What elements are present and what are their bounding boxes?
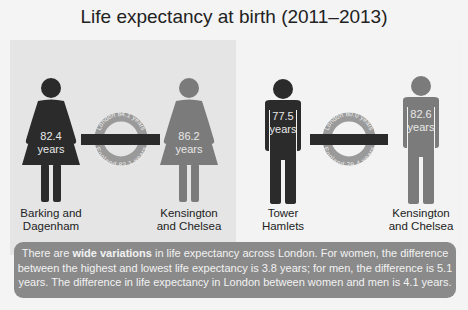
note-emphasis: wide variations: [72, 247, 151, 259]
man-figure-icon: [403, 76, 439, 204]
area-label-line: Dagenham: [6, 220, 96, 233]
man-figure-icon: [265, 79, 301, 204]
area-label-kensington-women: Kensington and Chelsea: [144, 207, 234, 233]
area-label-line: Kensington: [144, 207, 234, 220]
area-label-kensington-men: Kensington and Chelsea: [376, 207, 466, 233]
area-label-line: and Chelsea: [376, 220, 466, 233]
area-label-tower-hamlets: Tower Hamlets: [238, 207, 328, 233]
area-label-line: Hamlets: [238, 220, 328, 233]
summary-note: There are wide variations in life expect…: [14, 242, 456, 298]
area-label-line: Barking and: [6, 207, 96, 220]
note-prefix: There are: [22, 247, 73, 259]
women-highest-value: 86.2: [178, 130, 199, 142]
area-label-line: Tower: [238, 207, 328, 220]
women-lowest-unit: years: [38, 143, 65, 155]
area-label-line: and Chelsea: [144, 220, 234, 233]
women-lowest-value: 82.4: [40, 130, 61, 142]
men-highest-unit: years: [408, 121, 435, 133]
area-label-barking: Barking and Dagenham: [6, 207, 96, 233]
london-roundel-icon: London 84.1 years England 83.1 years: [81, 110, 160, 168]
area-label-line: Kensington: [376, 207, 466, 220]
women-highest-unit: years: [176, 143, 203, 155]
men-highest-value: 82.6: [410, 108, 431, 120]
men-lowest-unit: years: [270, 123, 297, 135]
men-lowest-value: 77.5: [272, 110, 293, 122]
london-roundel-icon: London 80.0 years England 79.4 years: [310, 110, 388, 168]
